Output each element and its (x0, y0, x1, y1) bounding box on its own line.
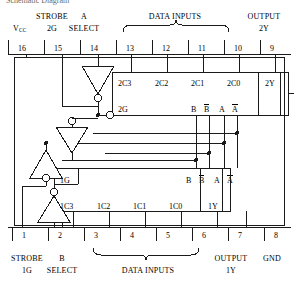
schematic-diagram: Schematic Diagram STROBE 2G A SELECT DAT… (0, 0, 299, 281)
schematic-svg (0, 0, 299, 281)
